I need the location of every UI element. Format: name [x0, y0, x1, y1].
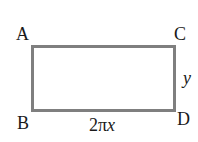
rectangle-diagram: A C B D y 2πx: [0, 0, 198, 142]
vertex-label-b: B: [17, 114, 29, 132]
vertex-label-c: C: [174, 25, 186, 43]
variable-x: x: [107, 115, 115, 135]
vertex-label-a: A: [16, 25, 29, 43]
rectangle-abdc: [31, 45, 176, 112]
vertex-label-d: D: [177, 110, 190, 128]
side-label-height: y: [183, 69, 191, 87]
side-label-length: 2πx: [89, 116, 115, 134]
